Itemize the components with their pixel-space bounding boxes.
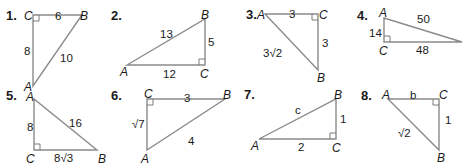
side-ab: c xyxy=(295,104,301,116)
problem-number: 2. xyxy=(111,8,122,23)
triangle-shape xyxy=(127,19,205,65)
vertex-c: C xyxy=(319,8,328,22)
problem-number: 8. xyxy=(361,88,372,103)
problem-8: 8. A C B b 1 √2 xyxy=(361,88,451,165)
side-ac: 12 xyxy=(163,68,176,80)
vertex-a: A xyxy=(119,65,128,79)
side-ab: √2 xyxy=(398,127,411,139)
problem-number: 7. xyxy=(244,87,255,102)
side-ab: 13 xyxy=(160,28,173,40)
side-ac: 14 xyxy=(369,27,382,39)
side-cb: 8√3 xyxy=(54,152,73,164)
vertex-c: C xyxy=(26,152,35,166)
triangle-worksheet: 1. C B A 6 8 10 2. B C A 13 5 12 3. A C … xyxy=(0,0,464,167)
problem-number: 1. xyxy=(6,8,17,23)
vertex-b: B xyxy=(98,152,106,166)
side-cb: 3 xyxy=(322,37,328,49)
right-angle-marker xyxy=(33,15,39,21)
problem-4: 4. A C 50 14 48 xyxy=(357,6,462,58)
side-ca: √7 xyxy=(132,118,145,130)
side-bc: 5 xyxy=(208,36,214,48)
vertex-b: B xyxy=(334,88,342,102)
triangle-shape xyxy=(265,14,318,70)
triangle-shape xyxy=(388,99,439,150)
problem-1: 1. C B A 6 8 10 xyxy=(6,8,88,94)
side-bc: 1 xyxy=(340,113,346,125)
triangle-shape xyxy=(147,99,225,150)
vertex-b: B xyxy=(317,71,325,85)
problem-number: 4. xyxy=(357,8,368,23)
triangle-shape xyxy=(33,15,82,86)
right-angle-marker xyxy=(330,133,336,139)
side-ac: 3 xyxy=(289,8,295,20)
side-ab: 4 xyxy=(188,135,195,147)
problem-7: 7. B C A c 1 2 xyxy=(244,87,346,155)
triangle-shape xyxy=(34,99,97,150)
problem-5: 5. A C B 8 16 8√3 xyxy=(6,88,106,166)
vertex-c: C xyxy=(439,88,448,102)
side-ab: 50 xyxy=(417,13,430,25)
right-angle-marker xyxy=(384,36,390,42)
problem-3: 3. A C B 3 3 3√2 xyxy=(246,7,328,85)
side-ab: 10 xyxy=(60,52,73,64)
vertex-c: C xyxy=(379,44,388,58)
side-ac: 8 xyxy=(27,121,33,133)
problem-number: 5. xyxy=(6,88,17,103)
vertex-a: A xyxy=(25,90,34,104)
right-angle-marker xyxy=(199,59,205,65)
vertex-c: C xyxy=(332,141,341,155)
side-ca: 8 xyxy=(24,45,30,57)
vertex-a: A xyxy=(378,6,387,20)
side-cb: 1 xyxy=(445,114,451,126)
side-cb: 48 xyxy=(416,44,429,56)
side-cb: 3 xyxy=(184,92,190,104)
vertex-c: C xyxy=(24,9,33,23)
vertex-b: B xyxy=(223,88,231,102)
vertex-b: B xyxy=(201,8,209,22)
problem-6: 6. C B A 3 √7 4 xyxy=(111,87,231,166)
vertex-b: B xyxy=(437,151,445,165)
side-ab: 16 xyxy=(69,117,82,129)
right-angle-marker xyxy=(312,14,318,20)
vertex-c: C xyxy=(144,87,153,101)
side-ac: b xyxy=(410,89,416,101)
problem-number: 3. xyxy=(246,7,257,22)
side-cb: 6 xyxy=(55,10,61,22)
vertex-c: C xyxy=(200,67,209,81)
vertex-b: B xyxy=(80,9,88,23)
side-ac: 2 xyxy=(298,141,304,153)
vertex-a: A xyxy=(256,8,265,22)
vertex-a: A xyxy=(250,139,259,153)
problem-number: 6. xyxy=(111,88,122,103)
problem-2: 2. B C A 13 5 12 xyxy=(111,8,214,81)
side-ab: 3√2 xyxy=(263,47,282,59)
vertex-a: A xyxy=(381,88,390,102)
right-angle-marker xyxy=(34,144,40,150)
vertex-a: A xyxy=(140,152,149,166)
